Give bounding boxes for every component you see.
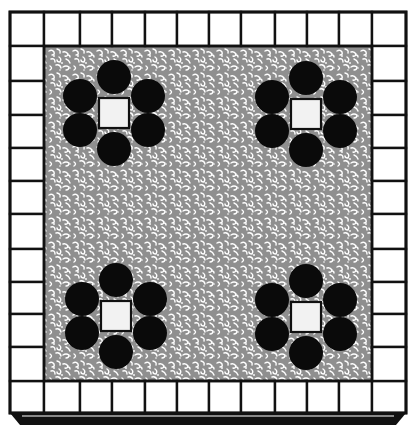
border-tile <box>241 381 275 413</box>
border-tile <box>241 12 275 46</box>
black-circle <box>289 133 323 167</box>
black-circle <box>65 316 99 350</box>
border-tile <box>10 148 44 181</box>
base-shadow <box>10 413 406 425</box>
border-tile <box>372 181 406 214</box>
border-tile <box>10 81 44 115</box>
border-tile <box>372 81 406 115</box>
black-circle <box>133 316 167 350</box>
center-square <box>99 98 129 128</box>
black-circle <box>131 113 165 147</box>
black-circle <box>323 283 357 317</box>
center-square <box>291 99 321 129</box>
border-tile <box>372 214 406 249</box>
border-tile <box>372 249 406 282</box>
black-circle <box>63 79 97 113</box>
black-circle <box>63 113 97 147</box>
border-tile <box>10 12 44 46</box>
black-circle <box>289 61 323 95</box>
black-circle <box>99 263 133 297</box>
border-tile <box>372 347 406 381</box>
border-tile <box>10 347 44 381</box>
border-tile <box>10 381 44 413</box>
border-tile <box>209 12 241 46</box>
black-circle <box>255 114 289 148</box>
border-tile <box>10 181 44 214</box>
border-tile <box>372 148 406 181</box>
black-circle <box>99 335 133 369</box>
border-tile <box>372 46 406 81</box>
border-tile <box>209 381 241 413</box>
border-tile <box>112 381 145 413</box>
border-tile <box>307 12 339 46</box>
black-circle <box>255 283 289 317</box>
border-tile <box>177 12 209 46</box>
tile-floor-diagram <box>0 0 418 429</box>
center-square <box>101 301 131 331</box>
border-tile <box>80 381 112 413</box>
border-tile <box>80 12 112 46</box>
black-circle <box>133 282 167 316</box>
black-circle <box>97 132 131 166</box>
black-circle <box>255 317 289 351</box>
border-tile <box>372 12 406 46</box>
border-tile <box>112 12 145 46</box>
border-tile <box>275 12 307 46</box>
border-tile <box>372 381 406 413</box>
black-circle <box>255 80 289 114</box>
border-tile <box>372 282 406 314</box>
border-tile <box>177 381 209 413</box>
border-tile <box>275 381 307 413</box>
black-circle <box>97 60 131 94</box>
black-circle <box>323 80 357 114</box>
border-tile <box>10 115 44 148</box>
border-tile <box>10 214 44 249</box>
border-tile <box>10 249 44 282</box>
border-tile <box>372 115 406 148</box>
border-tile <box>44 381 80 413</box>
base-bevel <box>10 413 406 425</box>
black-circle <box>323 114 357 148</box>
center-square <box>291 302 321 332</box>
border-tile <box>10 46 44 81</box>
black-circle <box>65 282 99 316</box>
border-tile <box>339 12 372 46</box>
border-tile <box>307 381 339 413</box>
black-circle <box>289 264 323 298</box>
border-tile <box>145 12 177 46</box>
border-tile <box>339 381 372 413</box>
border-tile <box>44 12 80 46</box>
black-circle <box>131 79 165 113</box>
border-tile <box>145 381 177 413</box>
black-circle <box>289 336 323 370</box>
black-circle <box>323 317 357 351</box>
border-tile <box>10 282 44 314</box>
border-tile <box>10 314 44 347</box>
border-tile <box>372 314 406 347</box>
